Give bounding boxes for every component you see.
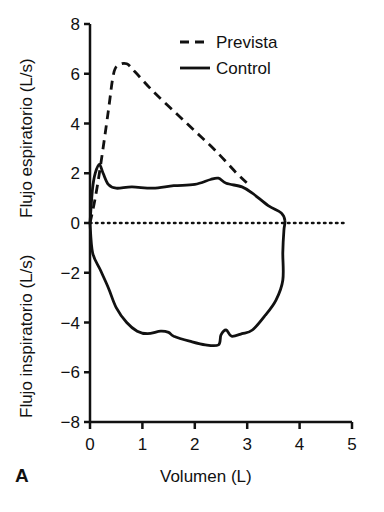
y-tick-label: −8: [61, 413, 80, 432]
flow-volume-chart: 86420−2−4−6−8012345 PrevistaControl Fluj…: [0, 0, 384, 512]
legend: PrevistaControl: [180, 33, 278, 78]
x-tick-label: 1: [138, 435, 147, 454]
series-control: [90, 165, 285, 346]
x-tick-label: 4: [295, 435, 304, 454]
y-tick-label: 8: [71, 15, 80, 34]
x-tick-label: 3: [242, 435, 251, 454]
legend-label-control: Control: [216, 59, 271, 78]
axes: 86420−2−4−6−8012345: [61, 15, 357, 454]
panel-letter: A: [15, 465, 29, 486]
y-tick-label: 6: [71, 65, 80, 84]
x-tick-label: 2: [190, 435, 199, 454]
y-tick-label: 0: [71, 214, 80, 233]
x-axis-title: Volumen (L): [160, 467, 252, 486]
y-tick-label: 4: [71, 115, 80, 134]
x-tick-label: 5: [347, 435, 356, 454]
y-tick-label: −6: [61, 363, 80, 382]
y-tick-label: −4: [61, 314, 80, 333]
y-tick-label: −2: [61, 264, 80, 283]
y-tick-label: 2: [71, 164, 80, 183]
data-series: [90, 63, 285, 345]
series-prevista: [90, 63, 250, 223]
y-axis-title-bottom: Flujo inspiratorio (L/s): [17, 255, 36, 418]
legend-label-prevista: Prevista: [216, 33, 278, 52]
y-axis-title-top: Flujo espiratorio (L/s): [17, 58, 36, 218]
x-tick-label: 0: [85, 435, 94, 454]
